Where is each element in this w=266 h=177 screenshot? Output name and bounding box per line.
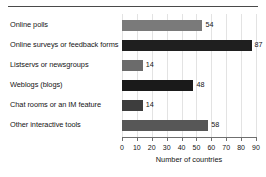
bar-track: 48 <box>122 75 256 95</box>
category-label: Listservs or newsgroups <box>10 55 118 75</box>
category-label: Weblogs (blogs) <box>10 75 118 95</box>
bar <box>122 60 143 71</box>
x-tick-mark <box>226 137 227 141</box>
x-tick-label: 90 <box>246 142 266 153</box>
category-label: Chat rooms or an IM feature <box>10 95 118 115</box>
bar-track: 87 <box>122 35 256 55</box>
bar-value-label: 58 <box>211 115 219 135</box>
bar <box>122 40 252 51</box>
x-tick-mark <box>167 137 168 141</box>
x-tick-mark <box>152 137 153 141</box>
chart-bar-row: Online polls54 <box>0 15 266 35</box>
x-tick-mark <box>182 137 183 141</box>
x-tick-mark <box>256 137 257 141</box>
bar <box>122 80 193 91</box>
category-label: Online surveys or feedback forms <box>10 35 118 55</box>
category-label: Other interactive tools <box>10 115 118 135</box>
bar-track: 14 <box>122 95 256 115</box>
bar-track: 58 <box>122 115 256 135</box>
bar <box>122 120 208 131</box>
x-tick-mark <box>137 137 138 141</box>
chart-bar-row: Other interactive tools58 <box>0 115 266 135</box>
chart-bar-row: Online surveys or feedback forms87 <box>0 35 266 55</box>
plot-area: Online polls54Online surveys or feedback… <box>0 14 266 177</box>
x-axis-title: Number of countries <box>122 155 256 164</box>
bar-value-label: 54 <box>205 15 213 35</box>
x-tick-mark <box>122 137 123 141</box>
chart-bar-row: Listservs or newsgroups14 <box>0 55 266 75</box>
bar-chart-figure: Online polls54Online surveys or feedback… <box>0 0 266 177</box>
x-axis-line <box>122 137 256 138</box>
bar-value-label: 48 <box>196 75 204 95</box>
x-tick-mark <box>196 137 197 141</box>
top-divider-rule <box>8 6 258 7</box>
bar-value-label: 14 <box>146 95 154 115</box>
bar-track: 14 <box>122 55 256 75</box>
chart-bar-row: Weblogs (blogs)48 <box>0 75 266 95</box>
bar <box>122 100 143 111</box>
bar <box>122 20 202 31</box>
bar-track: 54 <box>122 15 256 35</box>
bar-value-label: 87 <box>255 35 263 55</box>
chart-bar-row: Chat rooms or an IM feature14 <box>0 95 266 115</box>
x-tick-mark <box>211 137 212 141</box>
category-label: Online polls <box>10 15 118 35</box>
bar-value-label: 14 <box>146 55 154 75</box>
x-tick-mark <box>241 137 242 141</box>
